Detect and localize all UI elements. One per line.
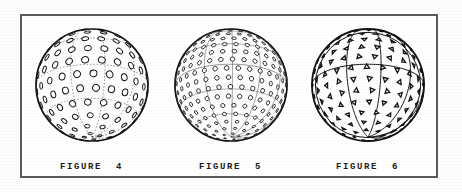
- figure-label-5: FIGURE 5: [161, 162, 300, 172]
- figure-label-6: FIGURE 6: [298, 162, 437, 172]
- patent-drawing-sheet: FIGURE 4 FIGURE 5 FIGURE 6: [0, 0, 462, 192]
- golf-ball-illustration-figure-4: [33, 26, 151, 144]
- golf-ball-illustration-figure-5: [172, 26, 290, 144]
- golf-ball-svg-figure-5: [172, 26, 290, 144]
- golf-ball-illustration-figure-6: [309, 26, 427, 144]
- figure-panel-4: FIGURE 4: [22, 16, 161, 180]
- figure-panel-5: FIGURE 5: [161, 16, 300, 180]
- figure-label-4: FIGURE 4: [22, 162, 161, 172]
- golf-ball-svg-figure-4: [33, 26, 151, 144]
- drawing-frame: FIGURE 4 FIGURE 5 FIGURE 6: [20, 14, 438, 178]
- golf-ball-svg-figure-6: [309, 26, 427, 144]
- figure-panel-6: FIGURE 6: [298, 16, 437, 180]
